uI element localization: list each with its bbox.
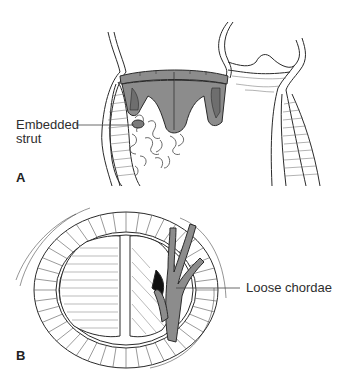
panel-b: Loose chordae B (0, 188, 338, 376)
panel-a: Embedded strut A (0, 0, 338, 188)
panel-letter-b: B (16, 348, 25, 363)
panel-a-illustration (0, 0, 338, 188)
label-line-1: Embedded (16, 118, 79, 132)
label-loose-chordae: Loose chordae (246, 281, 332, 295)
label-embedded-strut: Embedded strut (16, 118, 79, 146)
panel-letter-a: A (16, 170, 25, 185)
label-line-2: strut (16, 132, 79, 146)
